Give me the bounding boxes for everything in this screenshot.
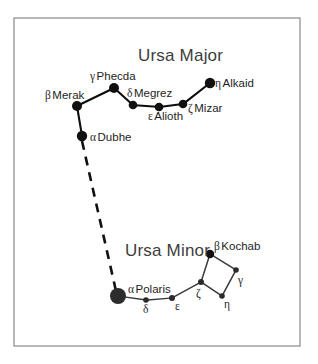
- greek-letter-zeta: ζ: [196, 287, 201, 300]
- star-label-megrez: δMegrez: [127, 87, 173, 99]
- star-name-phecda: Phecda: [97, 70, 137, 82]
- star-dot-gamma: [233, 267, 239, 273]
- star-name-alkaid: Alkaid: [223, 77, 254, 89]
- star-name-megrez: Megrez: [134, 87, 173, 99]
- star-label-phecda: γPhecda: [89, 70, 136, 83]
- chart-frame-border: [14, 18, 300, 346]
- star-dot-dubhe: [77, 131, 87, 141]
- greek-letter-dubhe: α: [90, 131, 96, 143]
- greek-letter-kochab: β: [214, 240, 220, 253]
- star-label-gamma: γ: [237, 274, 243, 287]
- greek-letter-delta: δ: [143, 303, 148, 315]
- star-dot-megrez: [129, 101, 138, 110]
- constellation-title-ursa-minor: Ursa Minor: [125, 241, 210, 260]
- star-name-kochab: Kochab: [221, 240, 260, 252]
- star-name-polaris: Polaris: [136, 283, 171, 295]
- star-dot-polaris: [110, 288, 126, 304]
- star-label-epsilon: ε: [175, 300, 180, 312]
- greek-letter-epsilon: ε: [175, 300, 180, 312]
- greek-letter-merak: β: [45, 89, 51, 102]
- star-name-alioth: Alioth: [154, 110, 183, 122]
- star-label-delta: δ: [143, 303, 148, 315]
- star-chart-figure: βMerakγPhecdaδMegrezεAliothζMizarηAlkaid…: [0, 0, 318, 364]
- star-dot-merak: [72, 101, 82, 111]
- star-name-dubhe: Dubhe: [98, 131, 132, 143]
- star-dot-alkaid: [205, 78, 215, 88]
- star-name-merak: Merak: [52, 89, 84, 101]
- star-dot-phecda: [109, 83, 119, 93]
- star-dot-zeta: [198, 279, 204, 285]
- star-label-kochab: βKochab: [214, 240, 260, 253]
- greek-letter-gamma: γ: [237, 274, 243, 287]
- star-name-mizar: Mizar: [194, 102, 222, 114]
- constellation-title-ursa-major: Ursa Major: [138, 46, 223, 65]
- greek-letter-phecda: γ: [89, 70, 95, 83]
- greek-letter-mizar: ζ: [188, 102, 193, 115]
- greek-letter-alkaid: η: [215, 77, 221, 90]
- greek-letter-polaris: α: [128, 283, 134, 295]
- sky-map-canvas: βMerakγPhecdaδMegrezεAliothζMizarηAlkaid…: [0, 0, 318, 364]
- star-dot-mizar: [179, 100, 188, 109]
- greek-letter-alioth: ε: [148, 110, 153, 122]
- greek-letter-eta: η: [224, 298, 230, 311]
- star-label-zeta: ζ: [196, 287, 201, 300]
- star-label-alkaid: ηAlkaid: [215, 77, 254, 90]
- star-label-eta: η: [224, 298, 230, 311]
- star-dot-delta: [143, 297, 149, 303]
- greek-letter-megrez: δ: [127, 87, 132, 99]
